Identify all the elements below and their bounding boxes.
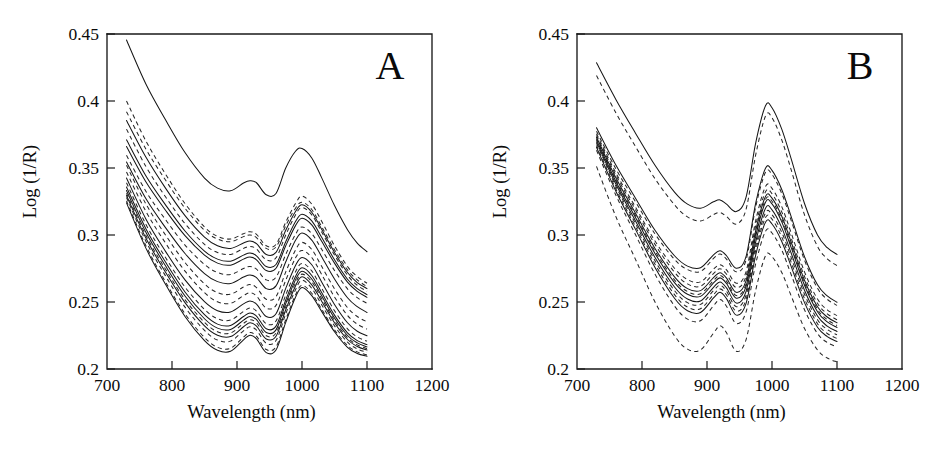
spectrum-curve bbox=[127, 197, 368, 352]
spectrum-curve bbox=[597, 147, 838, 341]
spectra-group bbox=[597, 63, 838, 362]
x-tick-label: 700 bbox=[94, 375, 121, 395]
y-tick-label: 0.45 bbox=[538, 24, 569, 44]
x-tick-label: 1100 bbox=[350, 375, 385, 395]
figure-root: 0.20.250.30.350.40.457008009001000110012… bbox=[0, 0, 941, 453]
spectra-group bbox=[127, 40, 368, 356]
chart-panel-b: 0.20.250.30.350.40.457008009001000110012… bbox=[470, 0, 941, 453]
x-tick-label: 1000 bbox=[755, 375, 790, 395]
x-tick-label: 900 bbox=[694, 375, 721, 395]
plot-area-b: 0.20.250.30.350.40.457008009001000110012… bbox=[490, 24, 920, 423]
spectrum-curve bbox=[597, 150, 838, 347]
chart-svg-a: 0.20.250.30.350.40.457008009001000110012… bbox=[0, 0, 471, 453]
y-tick-label: 0.4 bbox=[77, 91, 99, 111]
spectrum-curve bbox=[597, 136, 838, 320]
panel-letter: A bbox=[376, 43, 405, 88]
spectrum-curve bbox=[597, 142, 838, 332]
spectrum-curve bbox=[127, 140, 368, 295]
spectrum-curve bbox=[127, 101, 368, 283]
x-tick-label: 800 bbox=[629, 375, 656, 395]
x-tick-label: 1200 bbox=[415, 375, 450, 395]
y-tick-label: 0.3 bbox=[77, 225, 99, 245]
spectrum-curve bbox=[127, 40, 368, 252]
spectrum-curve bbox=[597, 166, 838, 362]
chart-panel-a: 0.20.250.30.350.40.457008009001000110012… bbox=[0, 0, 471, 453]
x-tick-label: 1000 bbox=[285, 375, 320, 395]
spectrum-curve bbox=[597, 76, 838, 266]
spectrum-curve bbox=[597, 63, 838, 255]
y-tick-label: 0.25 bbox=[68, 292, 99, 312]
spectrum-curve bbox=[597, 140, 838, 328]
chart-svg-b: 0.20.250.30.350.40.457008009001000110012… bbox=[470, 0, 941, 453]
spectrum-curve bbox=[127, 155, 368, 303]
spectrum-curve bbox=[597, 139, 838, 326]
y-axis-title: Log (1/R) bbox=[490, 145, 511, 218]
x-axis-title: Wavelength (nm) bbox=[657, 402, 785, 423]
y-tick-label: 0.35 bbox=[68, 158, 99, 178]
y-tick-label: 0.3 bbox=[547, 225, 569, 245]
spectrum-curve bbox=[597, 143, 838, 335]
y-tick-label: 0.35 bbox=[538, 158, 569, 178]
y-tick-label: 0.25 bbox=[538, 292, 569, 312]
spectrum-curve bbox=[127, 120, 368, 288]
x-tick-label: 1100 bbox=[820, 375, 855, 395]
spectrum-curve bbox=[597, 145, 838, 338]
x-tick-label: 900 bbox=[224, 375, 251, 395]
panel-letter: B bbox=[847, 43, 874, 88]
spectrum-curve bbox=[127, 203, 368, 356]
y-tick-label: 0.4 bbox=[547, 91, 569, 111]
spectrum-curve bbox=[127, 191, 368, 347]
x-axis-title: Wavelength (nm) bbox=[187, 402, 315, 423]
y-tick-label: 0.45 bbox=[68, 24, 99, 44]
plot-area-a: 0.20.250.30.350.40.457008009001000110012… bbox=[20, 24, 450, 423]
x-tick-label: 800 bbox=[159, 375, 186, 395]
x-tick-label: 700 bbox=[564, 375, 591, 395]
y-axis-title: Log (1/R) bbox=[20, 145, 41, 218]
x-tick-label: 1200 bbox=[885, 375, 920, 395]
